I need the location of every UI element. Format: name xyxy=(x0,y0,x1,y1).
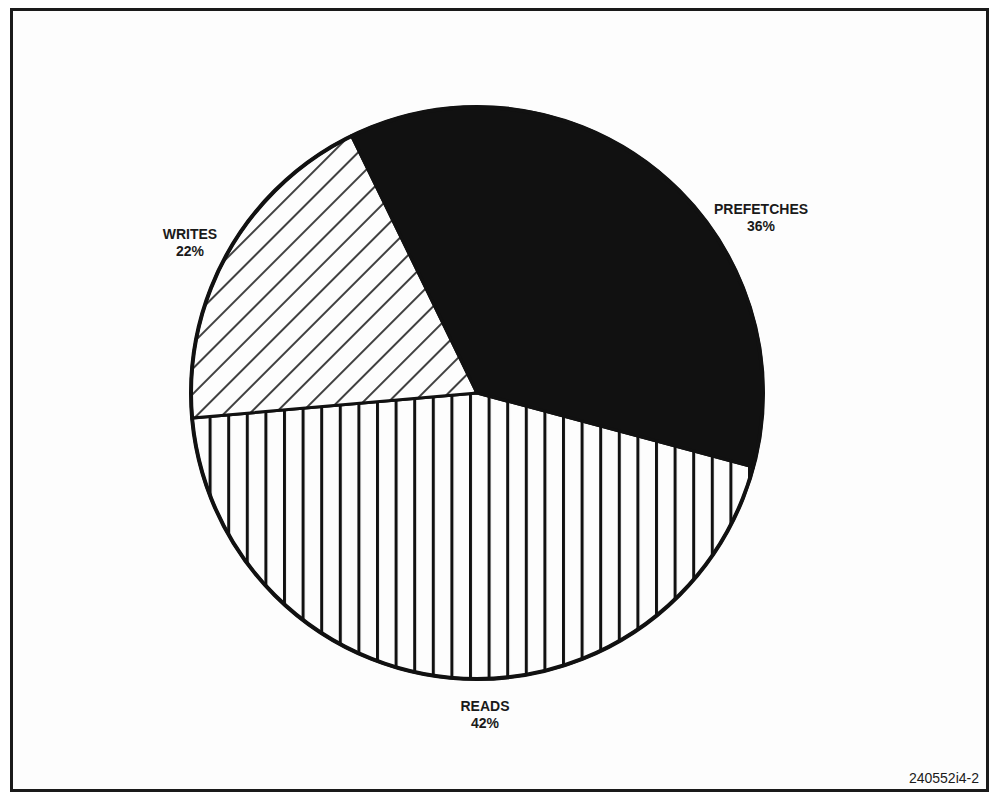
label-reads-name: READS xyxy=(440,698,530,715)
label-writes-pct: 22% xyxy=(150,243,230,260)
label-reads: READS 42% xyxy=(440,698,530,732)
label-writes-name: WRITES xyxy=(150,226,230,243)
label-prefetches-name: PREFETCHES xyxy=(706,201,816,218)
figure-id: 240552i4-2 xyxy=(909,770,979,786)
label-reads-pct: 42% xyxy=(440,715,530,732)
pie-chart xyxy=(0,0,997,808)
label-writes: WRITES 22% xyxy=(150,226,230,260)
label-prefetches-pct: 36% xyxy=(706,218,816,235)
label-prefetches: PREFETCHES 36% xyxy=(706,201,816,235)
